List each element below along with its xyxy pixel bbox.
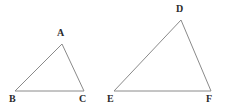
triangles-svg [0,0,229,110]
triangle-def [114,20,211,91]
triangle-def-outline [114,20,211,91]
geometry-figure: A B C D E F [0,0,229,110]
vertex-label-a: A [57,28,64,38]
vertex-label-b: B [9,94,16,104]
vertex-label-c: C [79,94,86,104]
vertex-label-f: F [206,94,212,104]
triangle-abc [15,44,84,91]
vertex-label-d: D [176,4,183,14]
triangle-abc-outline [15,44,84,91]
vertex-label-e: E [107,94,114,104]
